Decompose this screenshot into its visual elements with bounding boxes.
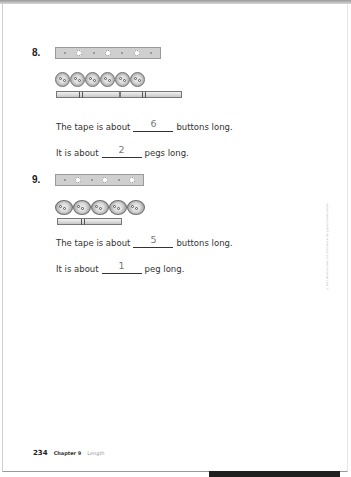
answer-blank[interactable]: 6 (133, 121, 173, 132)
strip-dot (91, 179, 93, 181)
answer-blank[interactable]: 2 (102, 147, 142, 158)
problem-9-tape-strip (55, 174, 144, 186)
problem-8-sentence-pegs: It is about2pegs long. (56, 147, 189, 158)
problem-9-number: 9. (32, 174, 40, 185)
button-icon (115, 72, 130, 87)
page-footer: 234 Chapter 9 Length (33, 449, 105, 457)
bottom-bar (209, 471, 340, 477)
copyright-notice: © 2011 Marshall Cavendish International … (326, 175, 330, 290)
strip-hole (76, 50, 82, 56)
problem-9-sentence-pegs: It is about1peg long. (56, 263, 184, 274)
strip-hole (134, 50, 140, 56)
topic-label: Length (87, 450, 104, 456)
sentence-prefix: It is about (56, 264, 99, 274)
strip-hole (105, 50, 111, 56)
button-icon (70, 72, 85, 87)
button-icon (109, 200, 127, 215)
strip-hole (75, 177, 81, 183)
button-icon (55, 200, 73, 215)
peg-icon (56, 91, 120, 98)
strip-dot (64, 179, 66, 181)
problem-9-pegs (57, 218, 122, 225)
sentence-suffix: peg long. (145, 264, 185, 274)
strip-hole (102, 177, 108, 183)
strip-hole (129, 177, 135, 183)
strip-dot (118, 179, 120, 181)
sentence-prefix: It is about (56, 148, 99, 158)
sentence-suffix: buttons long. (176, 238, 232, 248)
answer-value: 1 (119, 260, 125, 271)
page-number: 234 (33, 449, 48, 457)
problem-9-buttons (55, 200, 145, 215)
answer-value: 6 (150, 118, 156, 129)
peg-icon (57, 218, 122, 225)
chapter-label: Chapter 9 (54, 450, 82, 456)
answer-blank[interactable]: 5 (133, 237, 173, 248)
sentence-suffix: pegs long. (145, 148, 189, 158)
strip-dot (150, 52, 152, 54)
button-icon (73, 200, 91, 215)
problem-9-sentence-buttons: The tape is about5buttons long. (56, 237, 233, 248)
strip-dot (121, 52, 123, 54)
button-icon (85, 72, 100, 87)
button-icon (130, 72, 145, 87)
button-icon (91, 200, 109, 215)
problem-8-number: 8. (32, 47, 40, 58)
strip-dot (93, 52, 95, 54)
button-icon (127, 200, 145, 215)
strip-dot (64, 52, 66, 54)
problem-8-tape-strip (55, 47, 161, 59)
answer-blank[interactable]: 1 (102, 263, 142, 274)
sentence-prefix: The tape is about (56, 122, 130, 132)
button-icon (55, 72, 70, 87)
sentence-suffix: buttons long. (176, 122, 232, 132)
problem-8-buttons (55, 72, 145, 87)
problem-8-pegs (56, 91, 182, 98)
answer-value: 5 (150, 234, 156, 245)
peg-icon (120, 91, 182, 98)
button-icon (100, 72, 115, 87)
sentence-prefix: The tape is about (56, 238, 130, 248)
problem-8-sentence-buttons: The tape is about6buttons long. (56, 121, 233, 132)
answer-value: 2 (119, 144, 125, 155)
